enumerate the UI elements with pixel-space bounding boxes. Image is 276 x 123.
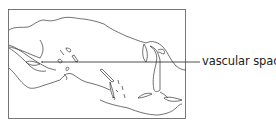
- tissue-outline: [9, 17, 186, 115]
- label-vascular-spaces: vascular spaces: [202, 54, 276, 68]
- diagram-frame: [9, 10, 186, 119]
